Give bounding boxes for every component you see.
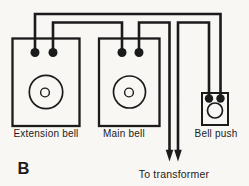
figure-letter: B	[18, 159, 30, 177]
main-bell-label: Main bell	[103, 128, 145, 139]
extension-bell-label: Extension bell	[13, 128, 78, 139]
bell-circuit-diagram: Extension bell Main bell Bell push To tr…	[0, 0, 249, 186]
main-bell-right-terminal	[135, 48, 144, 57]
bell-push-label: Bell push	[195, 128, 238, 139]
extension-bell-right-terminal	[49, 48, 58, 57]
bell-push-right-terminal	[216, 94, 224, 102]
to-transformer-label: To transformer	[139, 168, 210, 180]
extension-bell-left-terminal	[31, 48, 40, 57]
main-bell-left-terminal	[118, 48, 127, 57]
bell-push-left-terminal	[205, 94, 213, 102]
bell-circuit-figure: Extension bell Main bell Bell push To tr…	[0, 0, 249, 186]
